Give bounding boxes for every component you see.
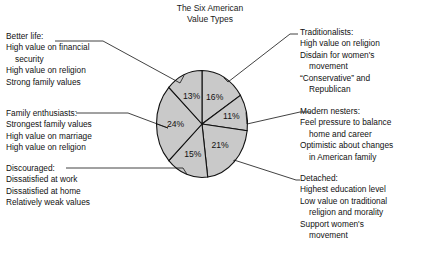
annotation-heading: Detached: — [300, 173, 387, 184]
annotation-line: Republican — [300, 84, 380, 95]
annotation-modern-nesters: Modern nesters: Feel pressure to balance… — [300, 106, 393, 163]
annotation-line: Dissatisfied at work — [6, 174, 90, 185]
annotation-line: Strongest family values — [6, 119, 92, 130]
annotation-line: Highest education level — [300, 184, 387, 195]
annotation-line: Strong family values — [6, 77, 89, 88]
annotation-line: High value on religion — [6, 142, 92, 153]
leader-line — [234, 160, 300, 180]
pie-slice-value-label: 24% — [167, 119, 185, 129]
pie-slice[interactable] — [202, 124, 247, 177]
annotation-line: Optimistic about changes — [300, 140, 393, 151]
pie-slice-value-label: 15% — [184, 149, 202, 159]
annotation-line: Disdain for women's — [300, 50, 380, 61]
annotation-heading: Discouraged: — [6, 163, 90, 174]
annotation-traditionalists: Traditionalists: High value on religion … — [300, 27, 380, 95]
annotation-line: religion and morality — [300, 207, 387, 218]
annotation-heading: Better life: — [6, 31, 89, 42]
annotation-heading: Family enthusiasts: — [6, 108, 92, 119]
annotation-better-life: Better life: High value on financial sec… — [6, 31, 89, 88]
annotation-line: Feel pressure to balance — [300, 117, 393, 128]
annotation-line: security — [6, 54, 89, 65]
annotation-line: High value on marriage — [6, 131, 92, 142]
annotation-family-enthusiasts: Family enthusiasts: Strongest family val… — [6, 108, 92, 154]
leader-line — [224, 34, 298, 82]
pie-slice-value-label: 11% — [223, 111, 240, 121]
annotation-line: High value on religion — [6, 65, 89, 76]
annotation-line: Support women's — [300, 219, 387, 230]
annotation-detached: Detached: Highest education level Low va… — [300, 173, 387, 241]
annotation-line: movement — [300, 61, 380, 72]
annotation-line: in American family — [300, 152, 393, 163]
annotation-line: Low value on traditional — [300, 196, 387, 207]
pie-slice-value-label: 16% — [206, 92, 224, 102]
annotation-line: Dissatisfied at home — [6, 186, 90, 197]
annotation-line: Relatively weak values — [6, 197, 90, 208]
annotation-discouraged: Discouraged: Dissatisfied at work Dissat… — [6, 163, 90, 209]
annotation-heading: Traditionalists: — [300, 27, 380, 38]
annotation-line: “Conservative” and — [300, 73, 380, 84]
annotation-line: home and career — [300, 129, 393, 140]
annotation-line: High value on religion — [300, 38, 380, 49]
annotation-heading: Modern nesters: — [300, 106, 393, 117]
annotation-line: movement — [300, 230, 387, 241]
pie-slice-value-label: 21% — [211, 140, 229, 150]
pie-slice-value-label: 13% — [183, 91, 201, 101]
annotation-line: High value on financial — [6, 42, 89, 53]
chart-canvas: The Six American Value Types 16%11%21%15… — [0, 0, 424, 254]
